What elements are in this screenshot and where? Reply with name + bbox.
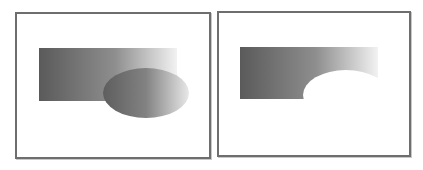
diagram-canvas xyxy=(0,0,423,170)
subtracted-rectangle xyxy=(240,47,378,99)
left-panel-shapes xyxy=(39,48,189,118)
right-panel-shapes xyxy=(240,47,378,99)
gradient-ellipse xyxy=(103,68,189,118)
